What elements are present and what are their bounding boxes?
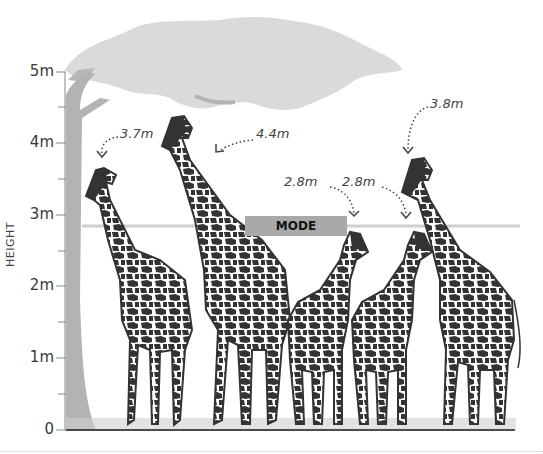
mode-label: MODE (245, 216, 347, 236)
height-label-giraffe-3: 2.8m (284, 174, 317, 189)
tick-label-1m: 1m (4, 348, 54, 366)
giraffe-height-diagram: 0 1m 2m 3m 4m 5m HEIGHT 3.7m 4.4m 2.8m 2… (0, 0, 543, 454)
height-label-giraffe-1: 3.7m (120, 126, 153, 141)
height-label-giraffe-2: 4.4m (256, 126, 289, 141)
tick-label-2m: 2m (4, 276, 54, 294)
giraffe-4 (352, 232, 432, 424)
height-label-giraffe-5: 3.8m (430, 96, 463, 111)
tick-label-5m: 5m (4, 62, 54, 80)
tick-label-3m: 3m (4, 205, 54, 223)
height-arrows (102, 107, 428, 214)
tick-label-0: 0 (4, 420, 54, 438)
bottom-divider (0, 451, 543, 452)
giraffe-1 (86, 168, 192, 425)
height-label-giraffe-4: 2.8m (342, 174, 375, 189)
tick-label-4m: 4m (4, 133, 54, 151)
y-axis-label: HEIGHT (4, 222, 17, 267)
giraffe-5 (402, 158, 520, 424)
